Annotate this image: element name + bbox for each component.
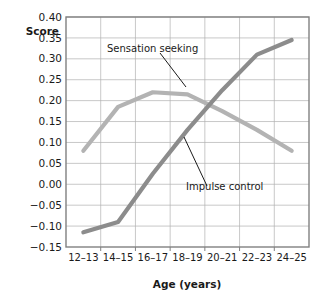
- x-tick-label: 22–23: [242, 252, 272, 263]
- annotation-impulse-control: Impulse control: [186, 181, 263, 192]
- y-tick-label: −0.05: [30, 199, 62, 211]
- y-tick-label: −0.15: [30, 241, 62, 253]
- x-tick-label: 14–15: [103, 252, 133, 263]
- x-axis-tick-labels: 12–1314–1516–1718–1920–2122–2324–25: [68, 252, 307, 263]
- y-tick-label: 0.15: [39, 115, 62, 127]
- chart-figure: 0.400.350.300.250.200.150.100.050.00−0.0…: [0, 0, 322, 297]
- x-tick-label: 16–17: [138, 252, 168, 263]
- x-tick-label: 20–21: [207, 252, 237, 263]
- x-tick-label: 12–13: [68, 252, 98, 263]
- line-chart: 0.400.350.300.250.200.150.100.050.00−0.0…: [0, 0, 322, 297]
- y-tick-label: 0.05: [39, 157, 62, 169]
- y-axis-title: Score: [26, 25, 59, 37]
- y-tick-label: 0.00: [39, 178, 62, 190]
- x-tick-label: 24–25: [276, 252, 306, 263]
- y-tick-label: 0.30: [39, 52, 62, 64]
- y-tick-label: −0.10: [30, 220, 62, 232]
- x-axis-title: Age (years): [153, 278, 222, 290]
- x-tick-label: 18–19: [172, 252, 202, 263]
- y-tick-label: 0.25: [39, 73, 62, 85]
- y-tick-label: 0.10: [39, 136, 62, 148]
- y-tick-label: 0.20: [39, 94, 62, 106]
- y-tick-label: 0.40: [39, 11, 62, 23]
- annotation-sensation-seeking: Sensation seeking: [107, 43, 198, 54]
